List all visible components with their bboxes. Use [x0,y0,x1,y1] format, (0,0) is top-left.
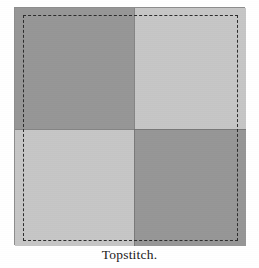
patch-bottom-right [134,129,246,246]
seam-line-vertical [134,8,135,246]
figure-caption: Topstitch. [0,247,259,263]
figure-root: Topstitch. [0,0,259,268]
four-patch-grid [15,8,246,246]
patch-top-left [15,8,134,129]
seam-line-horizontal [15,129,246,130]
patch-bottom-left [15,129,134,246]
quilt-block-frame [14,7,245,245]
patch-top-right [134,8,246,129]
